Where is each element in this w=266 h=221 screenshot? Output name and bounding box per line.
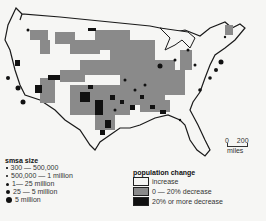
scale-unit: miles bbox=[227, 147, 249, 154]
dot-icon bbox=[6, 197, 12, 203]
population-legend-title: population change bbox=[133, 169, 263, 176]
dot-icon bbox=[6, 190, 10, 194]
dot-icon bbox=[6, 183, 9, 186]
population-legend-item: increase bbox=[133, 177, 263, 186]
dot-icon bbox=[6, 167, 8, 169]
dot-icon bbox=[6, 175, 8, 177]
smsa-legend-item: 5 million bbox=[5, 196, 115, 204]
scale-end: 200 bbox=[237, 137, 249, 144]
smsa-size-legend: smsa size 300 — 500,000 500,000 — 1 mill… bbox=[5, 157, 115, 204]
smsa-legend-item: 300 — 500,000 bbox=[5, 164, 115, 172]
swatch-increase bbox=[133, 177, 149, 186]
population-legend-item: 20% or more decrease bbox=[133, 197, 263, 206]
population-change-legend: population change increase 0 — 20% decre… bbox=[133, 169, 263, 206]
smsa-legend-item: 1— 25 million bbox=[5, 180, 115, 188]
population-legend-item: 0 — 20% decrease bbox=[133, 187, 263, 196]
scale-bar: 0 200 miles bbox=[225, 137, 249, 154]
swatch-decrease-0-20 bbox=[133, 187, 149, 196]
smsa-legend-item: 500,000 — 1 million bbox=[5, 172, 115, 180]
scale-start: 0 bbox=[225, 137, 229, 144]
smsa-legend-title: smsa size bbox=[5, 157, 115, 164]
swatch-decrease-20-plus bbox=[133, 197, 149, 206]
smsa-legend-item: 25 — 5 million bbox=[5, 188, 115, 196]
